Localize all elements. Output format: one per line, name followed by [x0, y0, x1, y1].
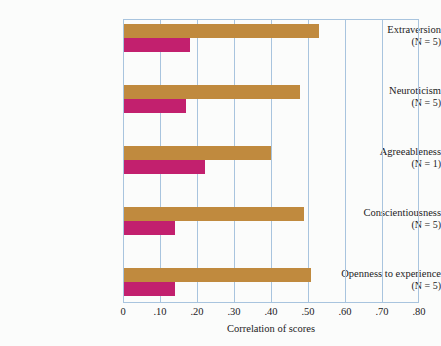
bar-upper	[124, 85, 300, 99]
bar-upper	[124, 24, 319, 38]
bar-group	[124, 207, 418, 235]
x-axis-title: Correlation of scores	[123, 323, 419, 334]
x-tick-label: 0	[108, 306, 138, 317]
bar-upper	[124, 268, 311, 282]
bar-lower	[124, 38, 190, 52]
bar-group	[124, 24, 418, 52]
bar-upper	[124, 207, 304, 221]
bar-group	[124, 85, 418, 113]
bar-group	[124, 268, 418, 296]
x-tick-label: .40	[256, 306, 286, 317]
x-tick-label: .20	[182, 306, 212, 317]
x-tick-label: .10	[145, 306, 175, 317]
bar-lower	[124, 99, 186, 113]
x-tick-label: .30	[219, 306, 249, 317]
bar-upper	[124, 146, 271, 160]
bar-group	[124, 146, 418, 174]
plot-area	[123, 19, 419, 303]
x-tick-label: .80	[404, 306, 434, 317]
bar-lower	[124, 282, 175, 296]
x-tick-label: .70	[367, 306, 397, 317]
bar-lower	[124, 160, 205, 174]
x-tick-label: .50	[293, 306, 323, 317]
correlation-bar-chart: Extraversion (N = 5) Neuroticism (N = 5)…	[0, 0, 441, 346]
bar-lower	[124, 221, 175, 235]
x-tick-label: .60	[330, 306, 360, 317]
